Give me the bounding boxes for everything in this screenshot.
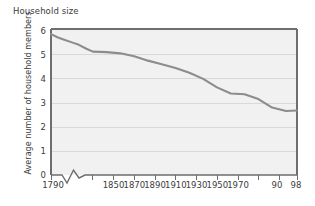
x-tick-label: 1930 [186,181,208,190]
x-tick-label: 1870 [123,181,145,190]
x-tick-label: 1950 [206,181,228,190]
x-tick-label: 1910 [165,181,187,190]
x-tick-label: 90 [272,181,283,190]
x-tick-label: 1790 [42,181,64,190]
x-tick-label: 1890 [144,181,166,190]
x-axis-tick-labels: 1790 1850 1870 1890 1910 1930 1950 1970 … [0,0,315,206]
household-size-chart: Household size Average number of househo… [0,0,315,206]
x-tick-label: 1850 [103,181,125,190]
x-tick-label: 98 [291,181,302,190]
x-tick-label: 1970 [227,181,249,190]
